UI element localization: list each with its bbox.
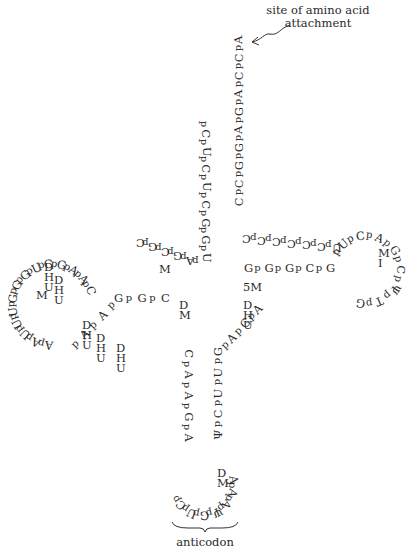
- attachment-arrow-icon: [0, 0, 417, 558]
- trna-diagram: CpCpGpGpApGpApCpCpApCpUpCpUpCpGpGpUpApGp…: [0, 0, 417, 558]
- anticodon-brace: [172, 522, 238, 532]
- anticodon-label: anticodon: [165, 536, 245, 549]
